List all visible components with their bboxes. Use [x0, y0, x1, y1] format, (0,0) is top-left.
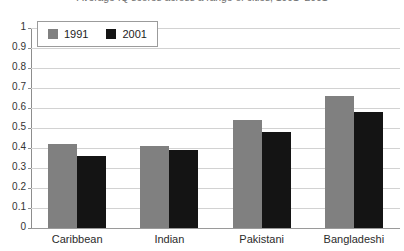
chart-title: Average IQ scores across a range of citi… [0, 0, 404, 9]
legend-label-2001: 2001 [122, 28, 146, 40]
legend-swatch-2001 [106, 29, 116, 39]
bar-caribbean-1991 [48, 144, 77, 228]
y-axis-tick-label: 0.7 [0, 81, 26, 92]
y-axis-tick-label: 0.4 [0, 141, 26, 152]
x-axis-label-caribbean: Caribbean [52, 233, 103, 245]
y-axis-tick-label: 0.9 [0, 41, 26, 52]
legend-item-2001: 2001 [106, 28, 146, 40]
y-axis-tick-label: 0.3 [0, 161, 26, 172]
legend-item-1991: 1991 [48, 28, 88, 40]
x-axis-label-pakistani: Pakistani [239, 233, 284, 245]
bar-pakistani-1991 [233, 120, 262, 228]
x-axis-label-bangladeshi: Bangladeshi [324, 233, 385, 245]
y-axis-tick-label: 0.6 [0, 101, 26, 112]
bar-bangladeshi-1991 [325, 96, 354, 228]
y-axis-tick-label: 0.2 [0, 181, 26, 192]
bar-indian-1991 [140, 146, 169, 228]
x-axis-label-indian: Indian [154, 233, 184, 245]
gridline [31, 228, 400, 229]
gridline [31, 68, 400, 69]
bar-chart: Average IQ scores across a range of citi… [0, 0, 404, 251]
plot-area [31, 28, 400, 228]
gridline [31, 88, 400, 89]
y-axis-tick-label: 0.8 [0, 61, 26, 72]
legend-label-1991: 1991 [64, 28, 88, 40]
y-axis-tick-label: 0.1 [0, 201, 26, 212]
gridline [31, 48, 400, 49]
y-axis-tick-label: 0 [0, 221, 26, 232]
bar-pakistani-2001 [262, 132, 291, 228]
bar-indian-2001 [169, 150, 198, 228]
y-axis-tick-label: 1 [0, 21, 26, 32]
bar-caribbean-2001 [77, 156, 106, 228]
y-axis-tick-label: 0.5 [0, 121, 26, 132]
legend-swatch-1991 [48, 29, 58, 39]
chart-legend: 19912001 [37, 21, 158, 47]
bar-bangladeshi-2001 [354, 112, 383, 228]
